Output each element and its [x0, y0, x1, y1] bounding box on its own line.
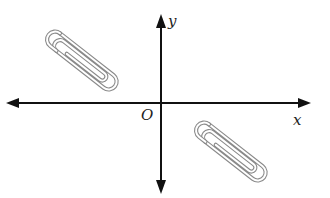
coordinate-plane-diagram: y x O	[0, 0, 330, 198]
paper-clip-icon	[193, 119, 269, 183]
origin-label: O	[141, 108, 153, 123]
x-axis	[6, 98, 311, 108]
axes-graphic	[0, 0, 330, 198]
y-axis-label: y	[168, 14, 176, 29]
arrow-down-icon	[156, 180, 166, 194]
x-axis-label: x	[293, 113, 301, 128]
arrow-right-icon	[298, 98, 311, 108]
arrow-left-icon	[6, 98, 19, 108]
paper-clip-icon	[44, 28, 120, 92]
arrow-up-icon	[156, 14, 166, 28]
